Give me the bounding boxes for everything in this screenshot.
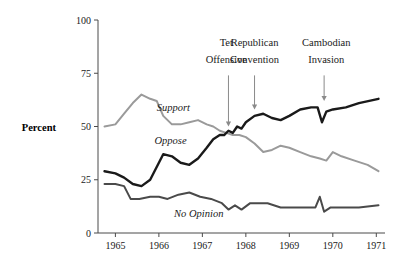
opinion-line-chart: 0255075100 1965196619671968196919701971 … bbox=[0, 0, 407, 271]
y-axis-title: Percent bbox=[22, 122, 57, 133]
series-line-oppose bbox=[105, 99, 379, 186]
annotation-label-cambodian-line2: Invasion bbox=[308, 54, 345, 65]
y-tick-label: 75 bbox=[81, 68, 91, 79]
y-tick-label: 0 bbox=[86, 228, 91, 239]
annotation-arrowhead-tet bbox=[226, 122, 231, 127]
x-tick-label: 1968 bbox=[236, 240, 256, 251]
y-tick-label: 100 bbox=[76, 15, 91, 26]
x-tick-label: 1966 bbox=[149, 240, 169, 251]
annotation-arrowhead-republican bbox=[252, 104, 257, 109]
annotation-label-cambodian-line1: Cambodian bbox=[302, 37, 351, 48]
y-axis-ticks: 0255075100 bbox=[76, 15, 98, 239]
x-tick-label: 1971 bbox=[366, 240, 386, 251]
chart-series-group bbox=[105, 95, 379, 212]
series-label-no-opinion: No Opinion bbox=[173, 208, 223, 219]
x-tick-label: 1967 bbox=[192, 240, 212, 251]
chart-page: 0255075100 1965196619671968196919701971 … bbox=[0, 0, 407, 271]
x-tick-label: 1965 bbox=[105, 240, 125, 251]
series-line-no-opinion bbox=[105, 184, 379, 212]
chart-annotations: TetOffensiveRepublicanConventionCambodia… bbox=[206, 37, 352, 127]
y-tick-label: 25 bbox=[81, 174, 91, 185]
x-tick-label: 1970 bbox=[323, 240, 343, 251]
series-line-support bbox=[105, 95, 379, 172]
x-tick-label: 1969 bbox=[279, 240, 299, 251]
annotation-label-republican-line2: Convention bbox=[230, 54, 280, 65]
annotation-arrowhead-cambodian bbox=[322, 96, 327, 101]
series-label-oppose: Oppose bbox=[155, 135, 187, 146]
series-inline-labels: SupportOpposeNo Opinion bbox=[155, 102, 224, 219]
y-tick-label: 50 bbox=[81, 121, 91, 132]
x-axis-ticks: 1965196619671968196919701971 bbox=[105, 233, 386, 251]
series-label-support: Support bbox=[157, 102, 191, 113]
annotation-label-republican-line1: Republican bbox=[231, 37, 280, 48]
